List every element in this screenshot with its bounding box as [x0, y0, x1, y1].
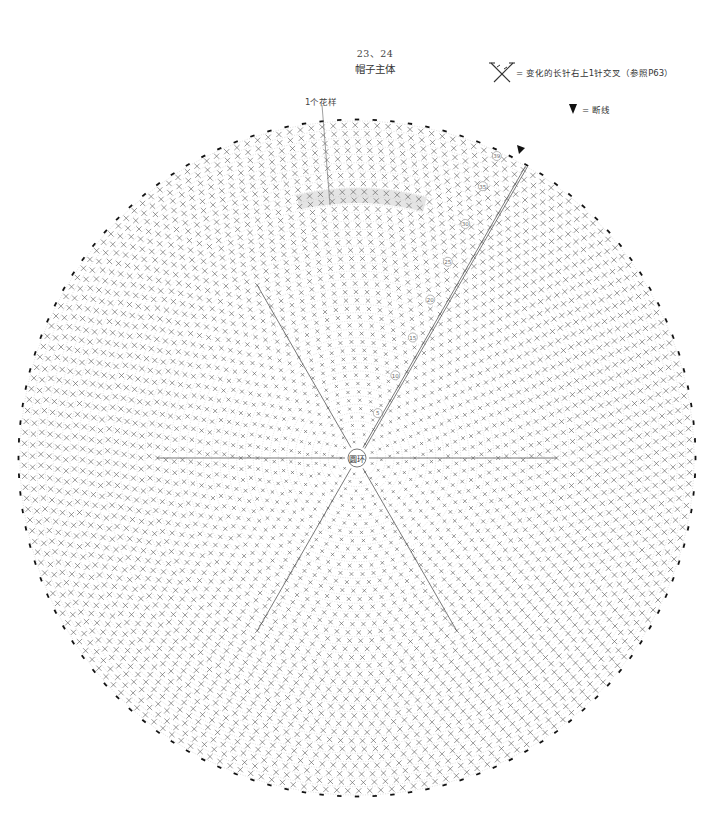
row-marker: 25	[443, 257, 452, 266]
svg-text:35: 35	[479, 184, 486, 190]
pattern-repeat-highlight	[296, 188, 427, 212]
row-marker: 5	[373, 409, 382, 418]
row-marker: 10	[391, 371, 400, 380]
svg-text:39: 39	[493, 153, 500, 159]
end-triangle	[517, 145, 525, 154]
svg-text:25: 25	[444, 259, 451, 265]
svg-text:15: 15	[409, 335, 416, 341]
svg-text:10: 10	[392, 373, 399, 379]
crochet-chart: 510152025303539 圆环	[0, 0, 725, 838]
row-marker: 35	[478, 182, 487, 191]
row-marker: 15	[408, 333, 417, 342]
row-marker: 30	[461, 220, 470, 229]
row-marker: 20	[426, 295, 435, 304]
center-ring-label: 圆环	[349, 455, 365, 464]
row-marker: 39	[492, 152, 501, 161]
cut-yarn-triangle-icon	[517, 145, 525, 154]
svg-text:5: 5	[376, 410, 380, 416]
center-ring: 圆环	[348, 449, 366, 467]
seam-line	[365, 167, 528, 448]
svg-text:20: 20	[427, 297, 434, 303]
svg-text:30: 30	[462, 221, 469, 227]
